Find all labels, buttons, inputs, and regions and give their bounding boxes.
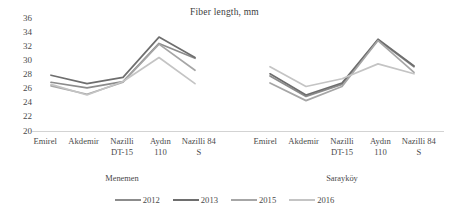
- y-axis-tick-label: 30: [8, 56, 32, 65]
- x-axis-category-label: Emirel: [246, 136, 284, 166]
- group-label-saraykoy: Sarayköy: [282, 174, 402, 183]
- x-axis-category-label: Akdemir: [284, 136, 322, 166]
- chart-legend: 2012201320152016: [0, 195, 449, 205]
- legend-label: 2013: [201, 195, 218, 205]
- x-axis-category-label: NazilliDT-15: [103, 136, 141, 166]
- legend-label: 2016: [317, 195, 334, 205]
- legend-label: 2012: [143, 195, 160, 205]
- x-axis-categories-saraykoy: EmirelAkdemirNazilliDT-15Aydın110Nazilli…: [246, 136, 438, 166]
- y-axis-tick-label: 22: [8, 112, 32, 121]
- legend-line-swatch: [289, 199, 315, 201]
- y-axis-tick-label: 32: [8, 42, 32, 51]
- plot-panel-menemen: [33, 18, 213, 131]
- legend-line-swatch: [115, 199, 141, 201]
- y-axis-tick-label: 20: [8, 127, 32, 136]
- x-axis-category-label: Emirel: [26, 136, 64, 166]
- y-axis-tick-label: 26: [8, 84, 32, 93]
- series-lines-saraykoy: [252, 18, 432, 131]
- y-axis-tick-label: 36: [8, 14, 32, 23]
- x-axis-category-label: Aydın110: [361, 136, 399, 166]
- legend-line-swatch: [173, 199, 199, 201]
- series-line-2015: [51, 44, 195, 94]
- legend-item-2015[interactable]: 2015: [231, 195, 276, 205]
- x-axis-categories-menemen: EmirelAkdemirNazilliDT-15Aydın110Nazilli…: [26, 136, 218, 166]
- x-axis-category-label: Akdemir: [64, 136, 102, 166]
- y-axis-tick-label: 34: [8, 28, 32, 37]
- x-axis-category-label: Nazilli 84S: [180, 136, 218, 166]
- legend-item-2012[interactable]: 2012: [115, 195, 160, 205]
- y-axis-tick-label: 28: [8, 70, 32, 79]
- series-lines-menemen: [33, 18, 213, 131]
- plot-panel-saraykoy: [252, 18, 432, 131]
- legend-item-2016[interactable]: 2016: [289, 195, 334, 205]
- x-axis-category-label: Aydın110: [141, 136, 179, 166]
- legend-line-swatch: [231, 199, 257, 201]
- group-label-menemen: Menemen: [62, 174, 182, 183]
- x-axis-category-label: NazilliDT-15: [323, 136, 361, 166]
- legend-label: 2015: [259, 195, 276, 205]
- y-axis-tick-label: 24: [8, 98, 32, 107]
- chart-container: Fiber length, mm 363432302826242220 Emir…: [0, 0, 449, 221]
- x-axis-line: [32, 131, 444, 132]
- x-axis-category-label: Nazilli 84S: [400, 136, 438, 166]
- legend-item-2013[interactable]: 2013: [173, 195, 218, 205]
- series-line-2013: [51, 37, 195, 84]
- y-axis-tick-labels: 363432302826242220: [8, 18, 32, 131]
- chart-title: Fiber length, mm: [0, 7, 449, 17]
